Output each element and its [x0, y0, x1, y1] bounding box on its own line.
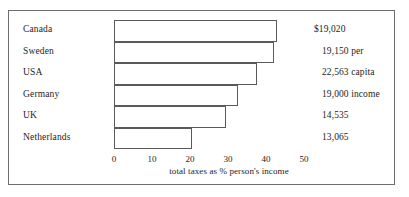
x-tick-label: 50	[293, 153, 315, 165]
x-tick-label: 10	[141, 153, 163, 165]
x-axis-label: total taxes as % person's income	[114, 166, 344, 176]
bar	[114, 42, 274, 64]
bar	[114, 63, 257, 85]
x-tick-label: 20	[179, 153, 201, 165]
category-label: Canada	[23, 19, 115, 41]
x-axis-line	[114, 149, 115, 150]
bar	[114, 128, 192, 150]
category-label: Germany	[23, 84, 115, 106]
category-label: Sweden	[23, 41, 115, 63]
bar	[114, 106, 226, 128]
plot-area	[114, 20, 324, 150]
bar-annotation: 13,065	[322, 127, 349, 149]
bar-annotation: 19,000 income	[322, 84, 380, 106]
x-tick-label: 40	[255, 153, 277, 165]
bar-annotation: 14,535	[322, 105, 349, 127]
x-tick-label: 0	[103, 153, 125, 165]
bar	[114, 20, 277, 42]
x-tick-label: 30	[217, 153, 239, 165]
category-label-column: CanadaSwedenUSAGermanyUKNetherlands	[23, 19, 115, 149]
category-label: USA	[23, 62, 115, 84]
bar-annotation: 19,150 per	[322, 41, 364, 63]
annotation-value-column: $19,02019,150 per22,563 capita19,000 inc…	[314, 19, 402, 149]
bar-annotation: $19,020	[314, 19, 346, 41]
x-axis-ticks: 01020304050	[114, 153, 334, 167]
bar	[114, 85, 238, 107]
chart-figure: CanadaSwedenUSAGermanyUKNetherlands 0102…	[8, 10, 395, 185]
bar-annotation: 22,563 capita	[322, 62, 374, 84]
category-label: Netherlands	[23, 127, 115, 149]
category-label: UK	[23, 105, 115, 127]
